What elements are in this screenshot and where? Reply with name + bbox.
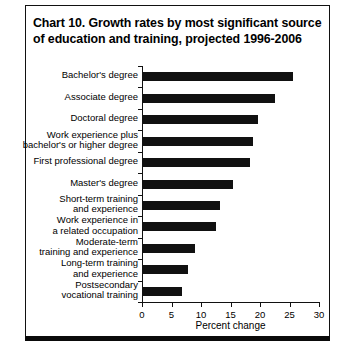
bar — [143, 222, 216, 231]
x-tick-label-10: 10 — [196, 309, 207, 320]
x-tick-label-15: 15 — [225, 309, 236, 320]
y-tick — [138, 173, 142, 174]
y-tick — [138, 281, 142, 282]
x-tick-label-0: 0 — [139, 309, 144, 320]
y-tick — [138, 87, 142, 88]
x-tick-5 — [172, 303, 173, 307]
y-tick — [138, 216, 142, 217]
category-axis-labels: Bachelor's degreeAssociate degreeDoctora… — [12, 66, 138, 302]
bar — [143, 201, 220, 210]
bar — [143, 94, 275, 103]
y-tick — [138, 302, 142, 303]
category-label: First professional degree — [14, 156, 138, 167]
category-label: Work experience in a related occupation — [14, 215, 138, 236]
category-label: Postsecondary vocational training — [14, 280, 138, 301]
bar — [143, 137, 253, 146]
x-tick-0 — [142, 303, 143, 307]
x-tick-label-20: 20 — [255, 309, 266, 320]
y-tick — [138, 66, 142, 67]
y-tick — [138, 259, 142, 260]
category-label: Associate degree — [14, 92, 138, 103]
bar — [143, 115, 258, 124]
y-tick — [138, 152, 142, 153]
x-tick-label-30: 30 — [314, 309, 325, 320]
x-tick-25 — [290, 303, 291, 307]
bar — [143, 265, 188, 274]
bar — [143, 287, 182, 296]
category-label: Work experience plus bachelor's or highe… — [14, 130, 138, 151]
y-tick — [138, 130, 142, 131]
x-tick-label-5: 5 — [169, 309, 174, 320]
y-tick — [138, 195, 142, 196]
bottom-rule — [25, 336, 330, 341]
chart-figure: Chart 10. Growth rates by most significa… — [0, 0, 348, 355]
category-label: Doctoral degree — [14, 113, 138, 124]
category-label: Bachelor's degree — [14, 70, 138, 81]
bar — [143, 72, 293, 81]
x-tick-label-25: 25 — [284, 309, 295, 320]
category-label: Short-term training and experience — [14, 194, 138, 215]
x-tick-30 — [319, 303, 320, 307]
category-label: Master's degree — [14, 178, 138, 189]
category-label: Long-term training and experience — [14, 258, 138, 279]
x-axis-title: Percent change — [142, 320, 319, 331]
bar — [143, 180, 233, 189]
bar — [143, 158, 250, 167]
x-tick-15 — [231, 303, 232, 307]
chart-title: Chart 10. Growth rates by most significa… — [33, 16, 323, 47]
y-tick — [138, 109, 142, 110]
bar — [143, 244, 195, 253]
x-tick-20 — [260, 303, 261, 307]
plot-area: 051015202530 — [142, 66, 319, 302]
x-tick-10 — [201, 303, 202, 307]
category-label: Moderate-term training and experience — [14, 237, 138, 258]
y-tick — [138, 238, 142, 239]
